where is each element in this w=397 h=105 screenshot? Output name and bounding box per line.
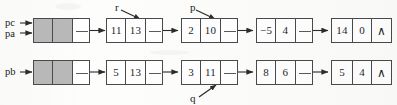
list-node: 2 10 xyxy=(181,18,238,43)
node-cell-value xyxy=(34,19,53,42)
node-cell-value: −5 xyxy=(257,19,276,42)
node-cell-pointer xyxy=(296,19,312,42)
node-cell-value: 13 xyxy=(126,19,145,42)
pointer-label-pa: pa xyxy=(5,29,15,40)
node-cell-pointer xyxy=(146,61,162,84)
node-cell-value: 0 xyxy=(353,19,372,42)
connector-layer xyxy=(0,0,397,105)
node-cell-value: 14 xyxy=(332,19,353,42)
scan-artifact xyxy=(55,3,81,10)
node-cell-pointer xyxy=(221,19,237,42)
scan-artifact xyxy=(150,50,190,55)
paper-texture xyxy=(0,0,397,105)
list-node: 5 4 ∧ xyxy=(331,60,392,85)
node-cell-value xyxy=(53,19,72,42)
node-cell-value: 8 xyxy=(257,61,276,84)
node-cell-value: 3 xyxy=(182,61,201,84)
node-cell-value: 6 xyxy=(276,61,295,84)
node-cell-pointer xyxy=(221,61,237,84)
annotation-label-q: q xyxy=(190,93,196,104)
node-cell-value: 13 xyxy=(126,61,145,84)
node-cell-value: 5 xyxy=(332,61,353,84)
node-cell-value: 4 xyxy=(353,61,372,84)
list-node xyxy=(33,18,90,43)
node-cell-pointer xyxy=(296,61,312,84)
list-node: −5 4 xyxy=(256,18,313,43)
node-cell-value: 11 xyxy=(201,61,220,84)
node-cell-value xyxy=(53,61,72,84)
node-cell-pointer xyxy=(73,19,89,42)
leader-line-q xyxy=(199,85,216,97)
node-cell-value: 11 xyxy=(107,19,126,42)
list-node: 14 0 ∧ xyxy=(331,18,392,43)
node-cell-value: 10 xyxy=(201,19,220,42)
annotation-label-r: r xyxy=(115,2,119,13)
node-cell-value: 2 xyxy=(182,19,201,42)
node-cell-pointer xyxy=(73,61,89,84)
annotation-label-p: p xyxy=(190,2,196,13)
node-cell-null: ∧ xyxy=(372,19,391,42)
node-cell-value: 4 xyxy=(276,19,295,42)
node-cell-value xyxy=(34,61,53,84)
node-cell-pointer xyxy=(146,19,162,42)
list-node: 3 11 xyxy=(181,60,238,85)
node-cell-value: 5 xyxy=(107,61,126,84)
pointer-label-pc: pc xyxy=(5,18,15,29)
pointer-label-pb: pb xyxy=(5,67,16,78)
list-node: 8 6 xyxy=(256,60,313,85)
list-node: 5 13 xyxy=(106,60,163,85)
list-node xyxy=(33,60,90,85)
node-cell-null: ∧ xyxy=(372,61,391,84)
list-node: 11 13 xyxy=(106,18,163,43)
diagram-canvas: pc pa 11 13 2 10 −5 4 14 0 ∧ pb 5 13 xyxy=(0,0,397,105)
